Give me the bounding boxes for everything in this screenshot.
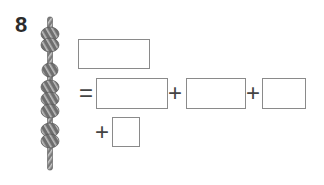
knot-group-4 <box>41 123 59 148</box>
knot-group-2 <box>42 63 58 77</box>
addend-box-2[interactable] <box>186 78 246 109</box>
knot-group-3 <box>41 80 59 118</box>
knot-group-1 <box>41 27 59 52</box>
addend-box-4[interactable] <box>112 117 140 147</box>
knotted-rope-illustration <box>0 0 80 185</box>
plus-sign-1: + <box>168 81 182 105</box>
addend-box-1[interactable] <box>96 78 168 109</box>
addend-box-3[interactable] <box>262 78 306 109</box>
equals-sign: = <box>79 81 93 105</box>
plus-sign-3: + <box>95 120 109 144</box>
total-answer-box[interactable] <box>78 39 150 69</box>
plus-sign-2: + <box>246 81 260 105</box>
